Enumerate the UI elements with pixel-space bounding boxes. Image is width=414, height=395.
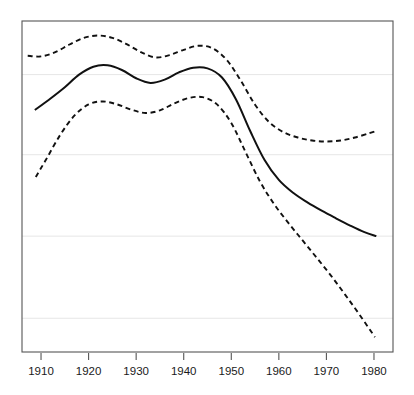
x-tick-label-1920: 1920 bbox=[76, 365, 102, 377]
x-tick-label-1960: 1960 bbox=[266, 365, 292, 377]
line-chart: 19101920193019401950196019701980 bbox=[0, 0, 414, 395]
x-tick-label-1910: 1910 bbox=[28, 365, 54, 377]
chart-container: 19101920193019401950196019701980 bbox=[0, 0, 414, 395]
x-tick-label-1970: 1970 bbox=[314, 365, 340, 377]
x-tick-label-1930: 1930 bbox=[123, 365, 149, 377]
x-tick-label-1980: 1980 bbox=[361, 365, 387, 377]
chart-background bbox=[0, 0, 414, 395]
x-tick-label-1940: 1940 bbox=[171, 365, 197, 377]
x-tick-label-1950: 1950 bbox=[218, 365, 244, 377]
